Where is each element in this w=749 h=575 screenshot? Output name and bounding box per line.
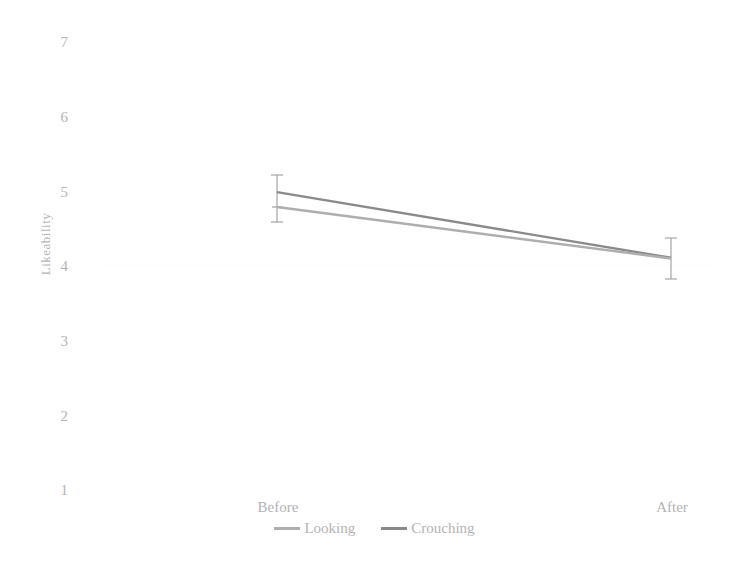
legend-item-looking[interactable]: Looking — [274, 521, 355, 536]
legend-swatch-crouching-icon — [381, 527, 407, 530]
legend-label-crouching: Crouching — [411, 521, 474, 536]
legend-label-looking: Looking — [304, 521, 355, 536]
plot-area — [0, 0, 749, 575]
error-bar-before — [271, 175, 283, 222]
series-line-crouching — [277, 192, 671, 258]
legend-item-crouching[interactable]: Crouching — [381, 521, 474, 536]
likeability-line-chart: Likeability 7 6 5 4 3 2 1 Before After — [0, 0, 749, 575]
series-line-looking — [277, 207, 671, 259]
chart-legend: Looking Crouching — [0, 521, 749, 536]
gridlines — [100, 42, 715, 490]
legend-swatch-looking-icon — [274, 527, 300, 530]
